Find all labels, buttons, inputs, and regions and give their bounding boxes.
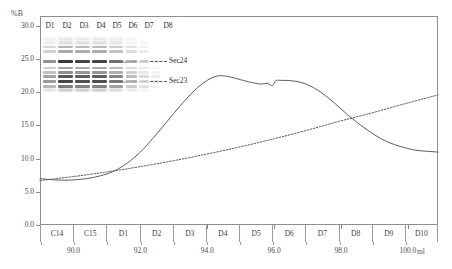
- gel-band: [58, 60, 73, 63]
- band-annotation-label: Sec23: [169, 76, 187, 85]
- gel-lane-label: D8: [163, 21, 172, 30]
- gel-band: [109, 50, 123, 53]
- gel-band: [92, 80, 107, 83]
- gel-lane-label: D4: [96, 21, 105, 30]
- gel-band: [58, 67, 73, 69]
- gel-band: [43, 60, 56, 63]
- gel-lane-labels: D1D2D3D4D5D6D7D8: [40, 21, 170, 32]
- gel-band: [58, 85, 73, 88]
- gel-band-smear: [141, 61, 148, 62]
- gel-band: [92, 38, 107, 40]
- annotation-leader-line: [150, 81, 167, 82]
- gel-band-smear: [118, 81, 127, 83]
- gel-band: [139, 89, 149, 91]
- gel-band: [139, 42, 149, 44]
- gel-band: [109, 75, 123, 78]
- gel-lane-label: D3: [79, 21, 88, 30]
- gel-band: [126, 50, 137, 53]
- gel-band: [92, 71, 107, 74]
- gel-band: [43, 67, 56, 69]
- gel-lane-label: D2: [62, 21, 71, 30]
- gel-lane-label: D1: [45, 21, 54, 30]
- gel-band: [109, 67, 123, 69]
- gel-band: [126, 46, 137, 48]
- gel-band: [75, 60, 90, 63]
- gel-band: [139, 50, 149, 53]
- gel-band: [43, 89, 56, 91]
- gel-band: [58, 42, 73, 44]
- gel-band: [151, 71, 160, 74]
- gel-band: [109, 89, 123, 91]
- gel-band: [92, 46, 107, 48]
- gel-band: [109, 85, 123, 88]
- gel-band: [58, 89, 73, 91]
- gel-band: [151, 85, 160, 88]
- gel-band: [75, 50, 90, 53]
- gel-band: [92, 50, 107, 53]
- gel-band: [92, 85, 107, 88]
- gel-band: [126, 42, 137, 44]
- gel-band: [92, 60, 107, 63]
- gel-band: [75, 42, 90, 44]
- gel-band-smear: [141, 81, 148, 82]
- gel-band: [75, 67, 90, 69]
- gel-band: [75, 38, 90, 40]
- gel-band: [43, 50, 56, 53]
- gel-band: [43, 71, 56, 74]
- gel-band: [58, 75, 73, 78]
- gel-band: [43, 75, 56, 78]
- gel-band: [109, 42, 123, 44]
- gel-band: [43, 46, 56, 48]
- gel-band: [92, 89, 107, 91]
- gel-band: [75, 46, 90, 48]
- gel-band: [43, 85, 56, 88]
- gel-band: [75, 80, 90, 83]
- gel-band: [139, 46, 149, 48]
- gel-band-smear: [118, 61, 127, 63]
- gel-band: [126, 85, 137, 88]
- gel-band: [58, 71, 73, 74]
- gel-band: [75, 89, 90, 91]
- gel-band: [43, 80, 56, 83]
- annotation-leader-line: [150, 61, 167, 62]
- gel-band: [75, 71, 90, 74]
- gel-lane-label: D7: [144, 21, 153, 30]
- gel-band: [139, 75, 149, 78]
- gel-band: [43, 42, 56, 44]
- gel-band: [126, 75, 137, 78]
- gel-band: [92, 67, 107, 69]
- chromatogram-figure: %B ml 30.025.020.015.010.05.00.0 90.092.…: [0, 0, 452, 269]
- gel-band: [43, 38, 56, 40]
- gel-band: [126, 67, 137, 69]
- gel-band: [139, 71, 149, 74]
- band-annotation-label: Sec24: [169, 56, 187, 65]
- gel-band: [58, 38, 73, 40]
- gel-band: [151, 75, 160, 78]
- gel-band: [109, 71, 123, 74]
- gel-band: [126, 89, 137, 91]
- gel-lane-label: D5: [112, 21, 121, 30]
- gel-lane-label: D6: [128, 21, 137, 30]
- gel-band: [75, 75, 90, 78]
- gel-band: [58, 80, 73, 83]
- gradient-line: [40, 95, 438, 181]
- gel-band: [75, 85, 90, 88]
- gel-band: [58, 46, 73, 48]
- gel-band: [126, 71, 137, 74]
- gel-blot: [43, 36, 158, 94]
- gel-band: [92, 42, 107, 44]
- gel-band: [58, 50, 73, 53]
- gel-band: [126, 38, 137, 40]
- gel-band: [92, 75, 107, 78]
- gel-band: [139, 85, 149, 88]
- gel-band: [109, 46, 123, 48]
- gel-band: [109, 38, 123, 40]
- gel-band: [139, 67, 149, 69]
